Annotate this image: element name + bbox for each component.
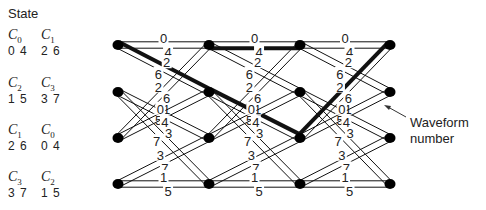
branch-label: 2: [246, 80, 253, 95]
state-node: [385, 179, 396, 189]
state-node: [113, 179, 124, 189]
state-node: [204, 87, 215, 97]
trellis-diagram: 0426153726043715042615372604371504261537…: [0, 0, 486, 210]
state-node: [113, 87, 124, 97]
state-node: [204, 40, 215, 50]
branch-label: 0: [160, 31, 167, 46]
state-node: [295, 87, 306, 97]
state-node: [385, 87, 396, 97]
branch-label: 2: [163, 55, 170, 70]
state-node: [204, 179, 215, 189]
branch-label: 5: [255, 184, 262, 199]
branch-label: 5: [346, 184, 353, 199]
state-node: [113, 40, 124, 50]
branch-label: 1: [160, 170, 167, 185]
branch-label: 4: [252, 115, 259, 130]
state-node: [113, 133, 124, 143]
branch-label: 4: [343, 115, 350, 130]
state-node: [385, 40, 396, 50]
branch-label: 1: [341, 170, 348, 185]
state-node: [295, 133, 306, 143]
pointer-arrow-icon: [388, 107, 406, 117]
branch-label: 2: [336, 80, 343, 95]
state-node: [385, 133, 396, 143]
waveform-number-label: Waveform number: [410, 115, 469, 147]
state-node: [295, 179, 306, 189]
state-node: [204, 133, 215, 143]
state-node: [295, 40, 306, 50]
branch-label: 5: [164, 184, 171, 199]
branch-label: 4: [161, 115, 168, 130]
branch-label: 1: [251, 170, 258, 185]
branch-label: 2: [155, 80, 162, 95]
branch-label: 2: [254, 55, 261, 70]
branch-label: 0: [251, 31, 258, 46]
branch-label: 2: [345, 55, 352, 70]
branch-label: 0: [341, 31, 348, 46]
